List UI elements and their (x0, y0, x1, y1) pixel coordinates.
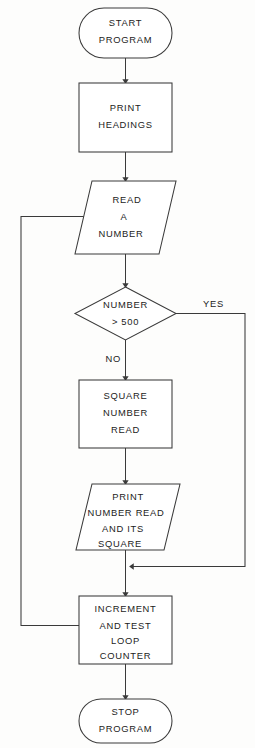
stop-line-1: STOP (111, 706, 139, 717)
node-stop[interactable]: STOP PROGRAM (79, 699, 172, 743)
print-headings-process-shape (79, 83, 172, 152)
start-line-2: PROGRAM (99, 34, 152, 45)
square-number-line-3: READ (111, 424, 140, 435)
node-square-number[interactable]: SQUARE NUMBER READ (79, 380, 172, 448)
increment-counter-line-4: COUNTER (100, 650, 151, 661)
square-number-line-2: NUMBER (103, 407, 148, 418)
decision-diamond-shape (75, 287, 176, 340)
decision-line-1: NUMBER (103, 299, 148, 310)
node-start[interactable]: START PROGRAM (79, 8, 172, 58)
branch-label-yes: YES (203, 298, 224, 309)
read-number-line-3: NUMBER (99, 228, 144, 239)
node-print-headings[interactable]: PRINT HEADINGS (79, 83, 172, 152)
start-terminator-shape (79, 8, 172, 58)
increment-counter-line-1: INCREMENT (94, 603, 156, 614)
print-result-line-1: PRINT (112, 491, 144, 502)
read-number-line-2: A (121, 211, 128, 222)
flowchart-canvas: START PROGRAM PRINT HEADINGS READ A NUMB… (0, 0, 255, 748)
print-result-line-2: NUMBER READ (88, 507, 165, 518)
program-flowchart: START PROGRAM PRINT HEADINGS READ A NUMB… (0, 0, 255, 748)
start-line-1: START (109, 17, 142, 28)
print-result-line-4: SQUARE (98, 538, 142, 549)
print-result-line-3: AND ITS (102, 523, 144, 534)
square-number-line-1: SQUARE (104, 390, 148, 401)
increment-counter-line-2: AND TEST (100, 620, 152, 631)
node-read-number[interactable]: READ A NUMBER (75, 181, 176, 254)
decision-line-2: > 500 (112, 316, 139, 327)
read-number-line-1: READ (113, 194, 142, 205)
node-print-result[interactable]: PRINT NUMBER READ AND ITS SQUARE (76, 484, 180, 550)
print-headings-line-2: HEADINGS (98, 119, 153, 130)
stop-line-2: PROGRAM (99, 723, 152, 734)
print-headings-line-1: PRINT (110, 102, 142, 113)
increment-counter-line-3: LOOP (111, 635, 140, 646)
node-increment-counter[interactable]: INCREMENT AND TEST LOOP COUNTER (79, 596, 172, 664)
node-decision[interactable]: NUMBER > 500 (75, 287, 176, 340)
branch-label-no: NO (106, 353, 121, 364)
